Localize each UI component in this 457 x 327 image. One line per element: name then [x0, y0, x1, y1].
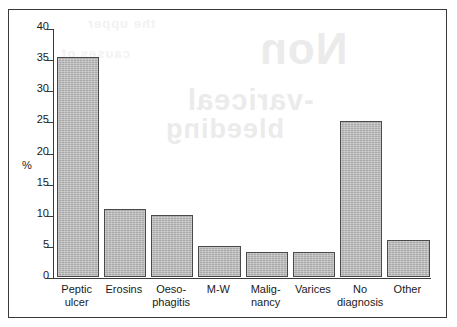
- plot-area: 4035302520151050 PepticulcerErosinsOeso-…: [53, 29, 431, 278]
- x-axis-category-label-line: ulcer: [53, 296, 100, 309]
- x-axis-category-label-line: phagitis: [148, 296, 195, 309]
- bar: [198, 246, 240, 277]
- y-axis-tick-label: 0: [43, 270, 49, 281]
- x-axis-category-label-line: Other: [384, 283, 431, 296]
- bar: [246, 252, 288, 277]
- x-axis-category-label-line: Peptic: [53, 283, 100, 296]
- x-axis-category-label: Malig-nancy: [242, 283, 289, 309]
- y-axis-line: [53, 29, 54, 279]
- x-axis-category-label-line: nancy: [242, 296, 289, 309]
- y-axis-tick-label: 15: [37, 177, 49, 188]
- y-axis-tick-label: 20: [37, 146, 49, 157]
- x-axis-category-label: M-W: [195, 283, 242, 296]
- bar: [340, 121, 382, 277]
- y-axis-title: %: [22, 160, 32, 171]
- bar: [293, 252, 335, 277]
- x-axis-category-label: Other: [384, 283, 431, 296]
- x-axis-category-label-line: diagnosis: [337, 296, 384, 309]
- bar: [151, 215, 193, 277]
- y-axis-tick-label: 40: [37, 21, 49, 32]
- x-axis-category-label-line: Oeso-: [148, 283, 195, 296]
- x-axis-category-label-line: M-W: [195, 283, 242, 296]
- bar: [104, 209, 146, 277]
- x-axis-category-label-line: Erosins: [100, 283, 147, 296]
- x-axis-category-label: Erosins: [100, 283, 147, 296]
- y-axis-tick-label: 30: [37, 83, 49, 94]
- y-axis-tick-label: 5: [43, 239, 49, 250]
- bar: [57, 57, 99, 277]
- y-axis-tick-label: 10: [37, 208, 49, 219]
- bar: [387, 240, 429, 277]
- x-axis-category-label: Oeso-phagitis: [148, 283, 195, 309]
- x-axis-category-label-line: No: [337, 283, 384, 296]
- y-axis-tick-label: 35: [37, 52, 49, 63]
- x-axis-category-label-line: Varices: [289, 283, 336, 296]
- figure-frame: Non -variceal bleeding the upper causes …: [8, 9, 447, 318]
- x-axis-category-label: Nodiagnosis: [337, 283, 384, 309]
- x-axis-category-label-line: Malig-: [242, 283, 289, 296]
- y-axis-tick-label: 25: [37, 114, 49, 125]
- x-axis-category-label: Pepticulcer: [53, 283, 100, 309]
- x-axis-category-label: Varices: [289, 283, 336, 296]
- x-axis-line: [53, 278, 431, 279]
